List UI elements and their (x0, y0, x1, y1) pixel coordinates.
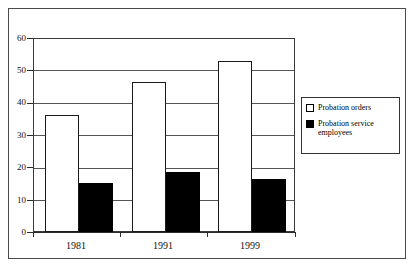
x-axis-line (33, 232, 296, 233)
chart-figure: 60 50 40 30 20 10 0 1981 1991 1999 (0, 0, 414, 267)
y-tick-label-20: 20 (2, 163, 26, 172)
y-tick-label-10: 10 (2, 196, 26, 205)
chart-legend: Probation orders Probation service emplo… (301, 97, 400, 154)
y-tick-label-40: 40 (2, 98, 26, 107)
legend-entry-probation-employees: Probation service employees (306, 119, 395, 137)
y-tick-label-0: 0 (2, 228, 26, 237)
legend-label-probation-orders: Probation orders (318, 103, 371, 112)
y-tick-label-30: 30 (2, 131, 26, 140)
open-square-swatch-icon (306, 104, 314, 112)
x-axis-tick-2 (207, 232, 208, 237)
bar-probation-orders-1991 (132, 82, 166, 232)
x-tick-label-1981: 1981 (46, 240, 106, 252)
x-axis-tick-1 (120, 232, 121, 237)
x-tick-label-1991: 1991 (133, 240, 193, 252)
x-axis-tick-start (33, 232, 34, 237)
y-tick-label-60: 60 (2, 34, 26, 43)
bar-probation-orders-1999 (218, 61, 252, 232)
solid-square-swatch-icon (306, 120, 314, 128)
bar-probation-employees-1999 (252, 179, 286, 232)
legend-entry-probation-orders: Probation orders (306, 103, 395, 112)
bar-probation-employees-1981 (79, 183, 113, 232)
bar-probation-employees-1991 (166, 172, 200, 232)
legend-label-probation-employees: Probation service employees (318, 119, 374, 137)
x-tick-label-1999: 1999 (220, 240, 280, 252)
bar-probation-orders-1981 (45, 115, 79, 232)
plot-area (33, 38, 295, 232)
gridline-50 (34, 70, 294, 71)
y-axis-labels: 60 50 40 30 20 10 0 (0, 0, 26, 267)
y-tick-label-50: 50 (2, 66, 26, 75)
x-axis-tick-end (295, 232, 296, 237)
